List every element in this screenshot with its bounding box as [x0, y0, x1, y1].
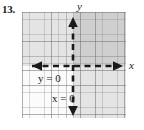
- equation-label-y-equals-zero: y = 0: [38, 72, 61, 84]
- x-axis-label: x: [129, 60, 134, 71]
- right-arrowhead: [113, 61, 123, 71]
- figure-page: 13. y x y = 0 x: [0, 0, 144, 130]
- down-arrowhead: [68, 106, 78, 116]
- equation-label-x-equals-zero: x = 0: [52, 92, 75, 104]
- left-arrowhead: [32, 61, 42, 71]
- problem-number: 13.: [2, 3, 15, 15]
- horizontal-axis-y-equals-0: [32, 61, 123, 71]
- y-axis-label: y: [77, 1, 82, 12]
- up-arrowhead: [68, 17, 78, 27]
- coordinate-plane-figure: y x y = 0 x = 0: [22, 12, 126, 118]
